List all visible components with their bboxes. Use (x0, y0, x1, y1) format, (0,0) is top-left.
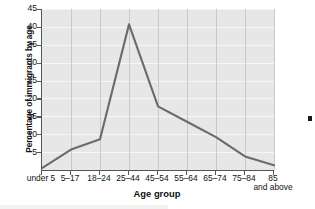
y-axis-tick-label: 45 (11, 4, 37, 13)
y-axis-tick-label: 5 (11, 148, 37, 157)
y-axis-tick-label: 10 (11, 130, 37, 139)
x-axis-title: Age group (41, 188, 273, 199)
chart-figure: Percentage of immigrants by age 51015202… (0, 0, 315, 209)
y-axis-tick-label: 30 (11, 58, 37, 67)
y-axis-tick-label: 35 (11, 40, 37, 49)
plot-area (41, 9, 274, 171)
bullet-marker-icon (308, 116, 312, 121)
page-edge-band (0, 205, 168, 209)
x-axis-tick-mark (128, 171, 129, 175)
x-axis-tick-mark (273, 171, 274, 175)
y-axis-tick-label: 20 (11, 94, 37, 103)
y-axis-tick-label: 15 (11, 112, 37, 121)
y-axis-tick-label: 25 (11, 76, 37, 85)
line-series (42, 9, 274, 170)
x-axis-tick-mark (41, 171, 42, 175)
x-axis-tick-mark (157, 171, 158, 175)
x-axis-tick-mark (186, 171, 187, 175)
x-axis-tick-mark (70, 171, 71, 175)
x-axis-tick-mark (244, 171, 245, 175)
x-axis-tick-mark (215, 171, 216, 175)
y-axis-tick-label: 40 (11, 22, 37, 31)
x-axis-tick-mark (99, 171, 100, 175)
gridline-vertical (274, 9, 275, 170)
